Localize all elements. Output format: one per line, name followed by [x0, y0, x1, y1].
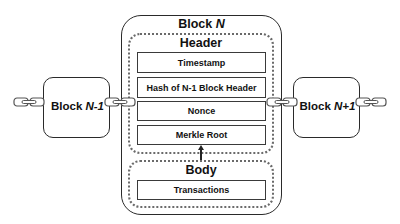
body-title: Body: [128, 163, 274, 177]
header-title: Header: [128, 36, 274, 50]
chain-link-icon: [104, 97, 136, 107]
merkle-root-field: Merkle Root: [137, 125, 266, 145]
chain-link-icon: [13, 97, 45, 107]
nonce-field: Nonce: [137, 101, 266, 121]
arrow-up-icon: [198, 145, 204, 150]
prev-hash-field: Hash of N-1 Block Header: [137, 77, 266, 98]
chain-link-icon: [266, 97, 298, 107]
timestamp-field: Timestamp: [137, 52, 266, 73]
chain-link-icon: [355, 97, 387, 107]
block-n-minus-1-label: Block N-1: [44, 100, 111, 112]
block-n-plus-1-label: Block N+1: [294, 100, 361, 112]
block-n-title: Block N: [121, 17, 282, 31]
transactions-field: Transactions: [137, 180, 266, 200]
